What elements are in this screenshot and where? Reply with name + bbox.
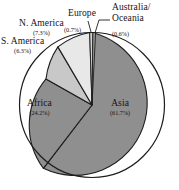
leader-line-australia-oceania (95, 20, 110, 33)
pie-label-australia-oceania-value: (0.6%) (112, 30, 129, 37)
pie-label-australia-oceania-name-line2: Oceania (112, 14, 150, 24)
pie-label-asia: Asia (61.7%) (110, 93, 130, 116)
pie-label-australia-oceania-name: Australia/ (112, 3, 150, 13)
pie-chart: N. America (7.3%) S. America (6.3%) Euro… (0, 0, 179, 190)
pie-label-s-america-name: S. America (1, 36, 44, 46)
pie-label-europe: Europe (0.7%) (62, 3, 96, 35)
pie-label-africa-value: (24.2%) (27, 110, 52, 116)
pie-label-s-america-value: (6.3%) (1, 48, 44, 54)
pie-label-n-america-name: N. America (19, 18, 64, 28)
pie-label-africa-name: Africa (27, 98, 52, 108)
pie-label-asia-value: (61.7%) (110, 110, 130, 116)
pie-label-europe-value: (0.7%) (64, 26, 81, 33)
pie-label-asia-name: Asia (111, 98, 129, 108)
pie-label-africa: Africa (24.2%) (27, 93, 52, 116)
pie-label-europe-name: Europe (68, 8, 96, 18)
pie-label-australia-oceania: Australia/ Oceania (0.6%) (112, 3, 150, 39)
pie-label-s-america: S. America (6.3%) (1, 31, 44, 54)
